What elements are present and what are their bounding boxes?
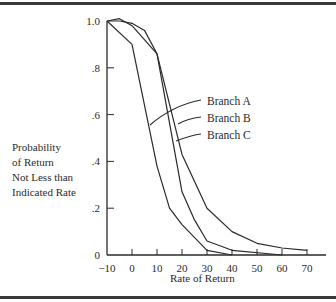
- x-tick-label: 0: [129, 262, 135, 274]
- y-tick-label: 1.0: [86, 15, 100, 27]
- leader-line-branch-a: [150, 100, 201, 125]
- curve-branch-b: [107, 21, 282, 255]
- x-tick-label: 70: [302, 262, 314, 274]
- x-tick-label: 30: [202, 262, 214, 274]
- leader-line-branch-c: [176, 134, 201, 141]
- x-tick-label: −10: [98, 262, 116, 274]
- legend-branch-c: Branch C: [207, 129, 251, 141]
- legend-branch-b: Branch B: [207, 112, 251, 124]
- x-tick-label: 50: [252, 262, 264, 274]
- leader-line-branch-b: [178, 117, 201, 124]
- y-tick-label: 0: [95, 249, 101, 261]
- x-tick-label: 60: [277, 262, 289, 274]
- y-tick-label: .2: [92, 202, 100, 214]
- x-tick-label: 20: [177, 262, 189, 274]
- x-tick-label: 40: [227, 262, 239, 274]
- axes: −100102030405060700.2.4.6.81.0: [86, 15, 326, 274]
- y-tick-label: .8: [92, 62, 101, 74]
- x-tick-label: 10: [152, 262, 164, 274]
- y-tick-label: .4: [92, 155, 101, 167]
- y-tick-label: .6: [92, 109, 101, 121]
- chart-plot: −100102030405060700.2.4.6.81.0 Branch A …: [0, 0, 336, 302]
- legend-branch-a: Branch A: [207, 95, 251, 107]
